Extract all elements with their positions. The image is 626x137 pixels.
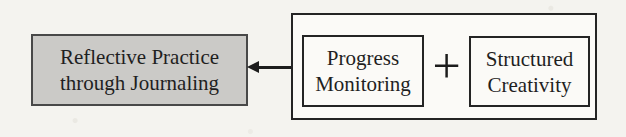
structured-creativity-line-1: Structured — [486, 46, 573, 72]
group-box: Progress Monitoring + Structured Creativ… — [291, 13, 597, 120]
structured-creativity-line-2: Creativity — [488, 72, 572, 98]
structured-creativity-box: Structured Creativity — [469, 36, 590, 107]
plus-operator-icon: + — [424, 12, 469, 119]
arrow-shaft — [258, 66, 292, 69]
arrow-left-icon — [247, 61, 259, 73]
result-box-line-2: through Journaling — [60, 70, 219, 96]
progress-monitoring-line-2: Monitoring — [315, 71, 411, 97]
result-box: Reflective Practice through Journaling — [31, 34, 248, 106]
result-box-line-1: Reflective Practice — [60, 44, 219, 70]
diagram-canvas: Reflective Practice through Journaling P… — [0, 0, 626, 137]
progress-monitoring-box: Progress Monitoring — [302, 35, 424, 107]
progress-monitoring-line-1: Progress — [327, 45, 399, 71]
